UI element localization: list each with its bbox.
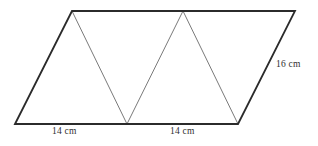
geometry-figure: 14 cm 14 cm 16 cm [0, 0, 318, 146]
dimension-label-base-left: 14 cm [52, 126, 76, 137]
parallelogram-diagram [0, 0, 318, 146]
dimension-label-side-right: 16 cm [276, 59, 300, 70]
dimension-label-base-right: 14 cm [170, 126, 194, 137]
